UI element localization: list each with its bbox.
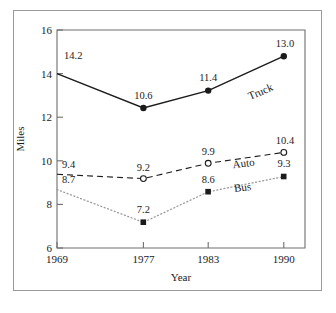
bus-marker-1983 — [205, 189, 211, 195]
truck-marker-1990 — [281, 53, 287, 59]
auto-marker-1983 — [205, 160, 211, 166]
y-axis-title: Miles — [14, 126, 26, 151]
x-tick-label-1969: 1969 — [46, 253, 69, 265]
x-tick-label-1977: 1977 — [132, 253, 155, 265]
truck-marker-1983 — [205, 87, 211, 93]
series-label-truck: Truck — [246, 81, 275, 102]
series-label-bus: Bus — [233, 180, 251, 194]
data-label-bus-1969: 8.7 — [62, 174, 75, 185]
data-label-auto-1983: 9.9 — [202, 146, 215, 157]
line-chart: 16 14 12 10 8 6 1969 1977 1983 1990 Mile… — [0, 0, 336, 313]
data-label-truck-1969: 14.2 — [64, 50, 82, 61]
data-label-truck-1977: 10.6 — [134, 90, 152, 101]
y-axis-ticks — [57, 30, 63, 248]
data-label-truck-1990: 13.0 — [276, 38, 294, 49]
data-label-auto-1990: 10.4 — [276, 135, 295, 146]
data-label-bus-1977: 7.2 — [137, 204, 150, 215]
chart-figure: 16 14 12 10 8 6 1969 1977 1983 1990 Mile… — [0, 0, 336, 313]
x-axis-ticks — [57, 242, 284, 248]
data-label-bus-1990: 9.3 — [277, 158, 290, 169]
truck-marker-1977 — [140, 105, 146, 111]
series-label-auto: Auto — [232, 156, 256, 171]
x-tick-label-1983: 1983 — [197, 253, 220, 265]
y-tick-label-8: 8 — [47, 198, 53, 210]
bus-marker-1990 — [281, 174, 287, 180]
auto-data-labels: 9.4 9.2 9.9 10.4 — [62, 135, 295, 173]
y-tick-label-16: 16 — [41, 24, 53, 36]
data-label-auto-1969: 9.4 — [62, 159, 76, 170]
x-axis-title: Year — [171, 271, 192, 283]
y-tick-labels: 16 14 12 10 8 6 — [41, 24, 53, 254]
auto-marker-1990 — [281, 150, 287, 156]
series-truck — [57, 53, 287, 111]
plot-frame — [57, 30, 305, 248]
y-tick-label-10: 10 — [41, 155, 53, 167]
x-tick-label-1990: 1990 — [273, 253, 296, 265]
data-label-truck-1983: 11.4 — [199, 72, 218, 83]
bus-data-labels: 8.7 7.2 8.6 9.3 — [62, 158, 291, 215]
y-tick-label-12: 12 — [41, 111, 52, 123]
data-label-auto-1977: 9.2 — [137, 162, 150, 173]
series-bus — [57, 174, 287, 225]
data-label-bus-1983: 8.6 — [202, 174, 215, 185]
x-tick-labels: 1969 1977 1983 1990 — [46, 253, 295, 265]
bus-marker-1977 — [141, 219, 147, 225]
auto-marker-1977 — [141, 176, 147, 182]
y-tick-label-14: 14 — [41, 68, 53, 80]
